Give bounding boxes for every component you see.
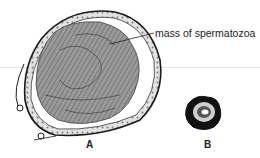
panel-b-section (186, 96, 221, 129)
panel-label-b: B (204, 139, 211, 150)
diagram-illustration (0, 0, 260, 158)
sperm-mass (36, 22, 139, 124)
panel-label-a: A (86, 139, 93, 150)
panel-a-tubule (16, 11, 161, 140)
callout-label-mass-of-spermatozoa: mass of spermatozoa (155, 27, 255, 39)
